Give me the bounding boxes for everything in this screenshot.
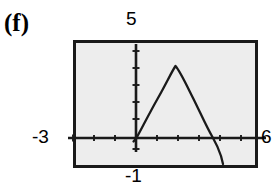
x-axis <box>68 135 266 142</box>
figure-container: (f) <box>0 0 275 190</box>
y-min-label: -1 <box>125 165 142 186</box>
screen-border <box>75 42 257 167</box>
plot-canvas <box>0 0 275 190</box>
y-max-label: 5 <box>126 8 137 29</box>
x-max-label: 6 <box>261 126 272 147</box>
x-min-label: -3 <box>32 126 49 147</box>
parabola-curve <box>134 66 224 164</box>
